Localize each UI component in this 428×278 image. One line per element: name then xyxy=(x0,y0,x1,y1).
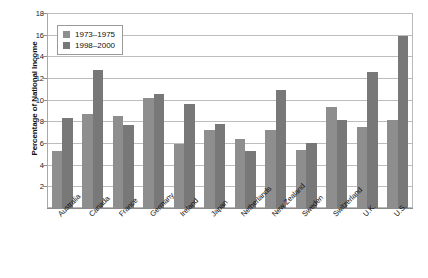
bar xyxy=(215,124,226,209)
bar xyxy=(62,118,73,208)
legend-item: 1973–1975 xyxy=(63,29,115,40)
bar xyxy=(174,144,185,208)
y-tick-label: 12 xyxy=(20,74,44,83)
y-tick-label: 4 xyxy=(20,160,44,169)
bar xyxy=(367,72,378,209)
bar-chart: Percentage of National Income 2468101214… xyxy=(0,0,428,278)
bar xyxy=(204,130,215,208)
legend-item: 1998–2000 xyxy=(63,40,115,51)
bar xyxy=(184,104,195,208)
y-tick-label: 18 xyxy=(20,9,44,18)
bar xyxy=(154,94,165,208)
legend-swatch-icon xyxy=(63,31,70,38)
bar xyxy=(235,139,246,208)
bar xyxy=(326,107,337,208)
bar xyxy=(52,151,63,208)
bar xyxy=(387,120,398,208)
bar xyxy=(398,36,409,208)
y-tick-label: 10 xyxy=(20,95,44,104)
y-tick-label: 2 xyxy=(20,182,44,191)
legend-label: 1973–1975 xyxy=(75,30,115,39)
legend: 1973–1975 1998–2000 xyxy=(57,25,123,55)
y-tick-label: 8 xyxy=(20,117,44,126)
y-tick-label: 6 xyxy=(20,139,44,148)
y-tick-label: 14 xyxy=(20,52,44,61)
bar xyxy=(296,150,307,209)
bar xyxy=(113,116,124,208)
legend-swatch-icon xyxy=(63,42,70,49)
y-tick-label: 16 xyxy=(20,30,44,39)
bar xyxy=(337,120,348,208)
bar xyxy=(82,114,93,208)
bar xyxy=(143,98,154,209)
bar xyxy=(93,70,104,208)
bar xyxy=(276,90,287,208)
legend-label: 1998–2000 xyxy=(75,41,115,50)
